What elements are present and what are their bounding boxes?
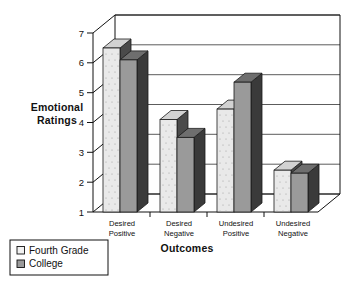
bar-group-undesired-negative: [274, 161, 319, 212]
y-tick-label: 4: [79, 117, 84, 128]
category-label-line: Negative: [164, 229, 194, 238]
y-tick-label: 1: [79, 207, 84, 218]
bar-college-undesired-negative: [291, 164, 319, 212]
y-tick-label: 6: [79, 57, 84, 68]
bar-college-desired-negative: [177, 128, 205, 212]
bar-chart-figure: 1 2 3 4 5 6 7 Emotional Ratings: [0, 0, 352, 282]
y-axis-title: Emotional Ratings: [31, 101, 84, 126]
x-axis-title: Outcomes: [161, 242, 214, 254]
y-tick-label: 3: [79, 147, 84, 158]
x-axis-ticks: [150, 212, 264, 217]
bar-college-undesired-positive: [234, 73, 262, 212]
y-axis-title-line2: Ratings: [37, 114, 77, 126]
y-tick-label: 7: [79, 28, 84, 39]
category-label-line: Positive: [223, 229, 250, 238]
y-tick-label: 5: [79, 87, 84, 98]
legend-swatch-fourth-grade: [17, 247, 25, 255]
legend-item-college[interactable]: College: [17, 258, 63, 269]
category-label-line: Desired: [109, 219, 135, 228]
category-label-line: Positive: [109, 229, 136, 238]
bar-group-desired-positive: [103, 39, 148, 212]
bar-college-desired-positive: [120, 51, 148, 212]
y-axis-tick-labels: 1 2 3 4 5 6 7: [79, 28, 84, 218]
category-label-line: Undesired: [276, 219, 311, 228]
legend-label-college: College: [29, 258, 63, 269]
y-axis-ticks: [87, 33, 93, 212]
chart-legend[interactable]: Fourth Grade College: [10, 240, 108, 275]
legend-label-fourth-grade: Fourth Grade: [29, 245, 89, 256]
y-tick-label: 2: [79, 177, 84, 188]
y-axis-title-line1: Emotional: [31, 101, 84, 113]
x-axis-category-labels: Desired Positive Desired Negative Undesi…: [109, 219, 311, 238]
legend-swatch-college: [17, 260, 25, 268]
category-label-line: Undesired: [219, 219, 254, 228]
chart-canvas: 1 2 3 4 5 6 7 Emotional Ratings: [0, 0, 352, 282]
category-label-line: Desired: [166, 219, 192, 228]
category-label-line: Negative: [278, 229, 308, 238]
